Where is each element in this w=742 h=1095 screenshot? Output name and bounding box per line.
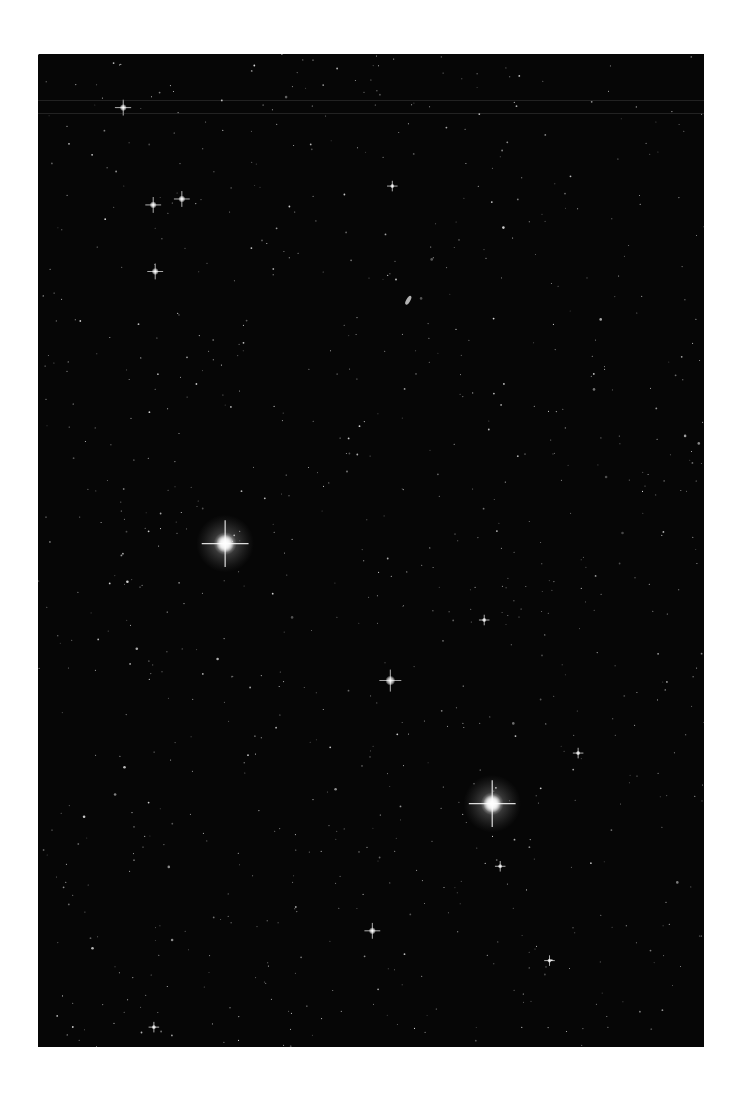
faint-star (274, 532, 275, 533)
faint-star (191, 487, 192, 488)
faint-star (170, 85, 171, 86)
star-center (379, 670, 401, 692)
faint-star (550, 440, 551, 441)
faint-star (585, 567, 586, 568)
faint-star (682, 266, 683, 267)
faint-star (323, 271, 324, 272)
faint-star (198, 500, 199, 501)
faint-star (542, 591, 543, 592)
faint-star (377, 988, 379, 990)
faint-star (302, 59, 303, 60)
faint-star (545, 966, 546, 967)
faint-star (463, 686, 464, 687)
faint-star (683, 131, 684, 132)
faint-star (167, 408, 168, 409)
faint-star (311, 630, 312, 631)
faint-star (119, 972, 120, 973)
faint-star (462, 814, 463, 815)
faint-star (204, 986, 205, 987)
faint-star (657, 699, 658, 700)
faint-star (120, 64, 121, 65)
faint-star (171, 1035, 173, 1037)
faint-star (286, 475, 287, 476)
bright-stars (115, 100, 583, 1033)
faint-star (607, 1027, 608, 1028)
faint-star (470, 609, 471, 610)
faint-star (604, 369, 605, 370)
faint-star (268, 966, 269, 967)
faint-star (253, 467, 254, 468)
faint-star (439, 587, 440, 588)
faint-star (522, 935, 523, 936)
faint-star (254, 735, 256, 737)
faint-star (593, 388, 596, 391)
faint-star (102, 98, 103, 99)
faint-star (136, 648, 139, 651)
faint-star (694, 796, 695, 797)
faint-star (176, 522, 177, 523)
faint-star (159, 925, 160, 926)
faint-star (521, 1027, 522, 1028)
faint-star (512, 237, 513, 238)
faint-star (84, 912, 85, 913)
faint-star (101, 522, 102, 523)
faint-star (378, 572, 379, 573)
faint-star (168, 866, 171, 869)
faint-star (623, 695, 625, 697)
faint-star (177, 192, 178, 193)
faint-star (564, 751, 565, 752)
faint-star (261, 737, 262, 738)
faint-star (348, 690, 350, 692)
faint-star (458, 239, 459, 240)
faint-star (476, 1027, 477, 1028)
faint-star (592, 356, 593, 357)
faint-star (424, 720, 425, 721)
faint-star (403, 489, 404, 490)
faint-star (373, 1004, 374, 1005)
faint-star (443, 887, 444, 888)
faint-star (229, 1007, 230, 1008)
faint-star (485, 258, 486, 259)
faint-star (657, 653, 659, 655)
faint-star (213, 917, 215, 919)
faint-star (181, 512, 182, 513)
faint-star (346, 471, 348, 473)
faint-star (126, 531, 128, 533)
faint-star (634, 725, 635, 726)
faint-star (696, 235, 697, 236)
faint-star (678, 197, 679, 198)
faint-star (472, 488, 473, 489)
faint-star (123, 766, 126, 769)
faint-star (369, 756, 370, 757)
faint-star (244, 585, 245, 586)
faint-star (619, 436, 620, 437)
faint-star (180, 377, 181, 378)
faint-star (620, 803, 621, 804)
faint-star (443, 73, 444, 74)
faint-star (436, 1008, 437, 1009)
faint-star (175, 742, 176, 743)
faint-star (525, 586, 526, 587)
faint-star (383, 157, 384, 158)
faint-star (663, 925, 664, 926)
faint-star (590, 862, 592, 864)
faint-star (356, 334, 357, 335)
faint-star (274, 831, 275, 832)
faint-star (272, 593, 274, 595)
faint-star (293, 875, 294, 876)
faint-star (300, 956, 302, 958)
faint-star (272, 268, 274, 270)
faint-star (691, 451, 692, 452)
faint-star (577, 208, 578, 209)
faint-star (56, 1015, 58, 1017)
faint-star (663, 955, 664, 956)
faint-star (555, 349, 556, 350)
faint-star (650, 388, 651, 389)
faint-star (514, 990, 515, 991)
faint-star (57, 635, 58, 636)
faint-star (251, 131, 252, 132)
faint-star (699, 935, 700, 936)
faint-star (514, 552, 515, 553)
faint-star (534, 948, 535, 949)
faint-star (658, 773, 659, 774)
